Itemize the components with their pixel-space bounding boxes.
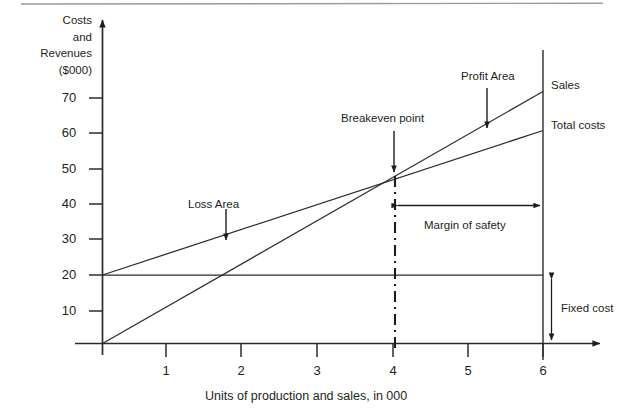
x-tick-marks xyxy=(166,344,543,358)
y-tick-label-60: 60 xyxy=(57,125,81,140)
y-tick-label-30: 30 xyxy=(57,231,81,246)
y-axis-title: Costs and Revenues ($000) xyxy=(8,12,92,78)
annotation-profit-area: Profit Area xyxy=(461,70,515,83)
y-tick-label-50: 50 xyxy=(57,161,81,176)
y-tick-label-10: 10 xyxy=(57,303,81,318)
series-label-total-costs: Total costs xyxy=(551,119,605,132)
x-tick-label-6: 6 xyxy=(531,363,555,378)
x-tick-label-1: 1 xyxy=(154,363,178,378)
y-tick-label-40: 40 xyxy=(57,196,81,211)
y-tick-marks xyxy=(89,98,103,311)
y-axis-title-line-1: Costs xyxy=(8,12,92,29)
x-tick-label-2: 2 xyxy=(229,363,253,378)
x-tick-label-4: 4 xyxy=(381,363,405,378)
chart-canvas xyxy=(0,0,625,418)
annotation-fixed-cost: Fixed cost xyxy=(561,302,613,315)
annotation-breakeven-point: Breakeven point xyxy=(341,112,424,125)
breakeven-chart: Costs and Revenues ($000) 70 60 50 40 30… xyxy=(0,0,625,418)
y-tick-label-70: 70 xyxy=(57,90,81,105)
x-axis-title: Units of production and sales, in 000 xyxy=(205,390,407,403)
top-divider-rule xyxy=(21,3,603,4)
y-axis-title-line-3: Revenues xyxy=(8,45,92,62)
y-axis-title-line-4: ($000) xyxy=(8,62,92,79)
sales-line xyxy=(103,92,544,344)
x-tick-label-5: 5 xyxy=(456,363,480,378)
annotation-loss-area: Loss Area xyxy=(188,198,239,211)
annotation-margin-of-safety: Margin of safety xyxy=(424,219,506,232)
total-costs-line xyxy=(103,131,544,276)
y-axis-title-line-2: and xyxy=(8,29,92,46)
series-label-sales: Sales xyxy=(551,79,580,92)
y-tick-label-20: 20 xyxy=(57,267,81,282)
x-tick-label-3: 3 xyxy=(305,363,329,378)
